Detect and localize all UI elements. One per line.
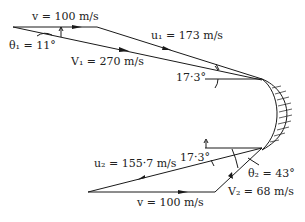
velocity-diagram: v = 100 m/s θ₁ = 11° V₁ = 270 m/s u₁ = 1…	[0, 0, 305, 222]
arrow-icon	[162, 46, 171, 50]
arrow-icon	[178, 190, 188, 194]
blade-outer-edge	[262, 79, 287, 150]
turbine-blade	[262, 79, 292, 150]
arrow-icon	[72, 25, 82, 29]
inlet-absolute-velocity-label: V₁ = 270 m/s	[70, 55, 144, 68]
inlet-absolute-velocity-line	[13, 27, 262, 80]
inlet-blade-speed-label: v = 100 m/s	[31, 10, 99, 23]
blade-inner-edge	[262, 79, 277, 150]
angle-leader	[248, 158, 259, 165]
angle-arc	[215, 79, 218, 88]
outlet-absolute-velocity-label: V₂ = 68 m/s	[227, 185, 294, 198]
angle-arc	[232, 149, 238, 168]
outlet-blade-speed-label: v = 100 m/s	[136, 196, 204, 209]
outlet-blade-angle-label: 17·3°	[180, 151, 210, 164]
outlet-relative-velocity-label: u₂ = 155·7 m/s	[94, 157, 177, 170]
inlet-blade-angle-label: 17·3°	[176, 71, 206, 84]
outlet-exit-angle-label: θ₂ = 43°	[248, 167, 295, 180]
inlet-relative-velocity-label: u₁ = 173 m/s	[151, 29, 223, 42]
inlet-nozzle-angle-label: θ₁ = 11°	[9, 39, 56, 52]
